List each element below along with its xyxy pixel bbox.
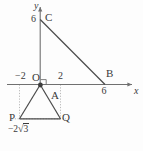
tick-label-y-six: 6 — [31, 14, 36, 24]
radicand-value: 3 — [23, 123, 29, 134]
segment-CB — [40, 20, 105, 85]
geometry-figure: C 6 B 6 −2 2 O x y A P Q −2√3 — [0, 0, 143, 151]
tick-label-x-negative-two: −2 — [15, 71, 26, 81]
point-label-Q: Q — [62, 112, 70, 123]
origin-label-O: O — [32, 72, 40, 83]
point-label-P: P — [9, 112, 15, 123]
y-axis-label: y — [34, 1, 38, 11]
vertex-markers — [38, 83, 43, 88]
x-axis-label: x — [134, 86, 138, 96]
point-O-dot — [38, 83, 43, 88]
tick-label-neg-two-root-three: −2√3 — [8, 124, 29, 135]
tick-label-x-six: 6 — [102, 86, 107, 96]
point-label-B: B — [106, 68, 113, 79]
y-axis-arrow-icon — [38, 7, 42, 12]
point-label-C: C — [45, 12, 52, 23]
point-label-A: A — [51, 90, 59, 101]
triangle-OCB — [40, 20, 105, 85]
radical-sign-prefix: −2 — [8, 124, 18, 134]
tick-label-x-two: 2 — [58, 71, 63, 81]
segment-OP — [20, 85, 41, 119]
x-axis-arrow-icon — [127, 82, 132, 86]
